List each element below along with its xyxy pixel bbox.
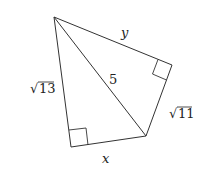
- label-diagonal-5: 5: [109, 72, 117, 87]
- radical-sign: √: [169, 106, 178, 121]
- edge-sqrt11: [146, 65, 172, 136]
- diagonal-5: [54, 17, 146, 136]
- geometry-diagram: y 5 x √ 13 √ 11: [0, 0, 206, 171]
- label-sqrt13: √ 13: [30, 81, 56, 96]
- radicand-13: 13: [39, 81, 56, 96]
- right-angle-marker-bottom-left: [69, 128, 88, 145]
- label-sqrt11: √ 11: [169, 106, 195, 121]
- label-x: x: [102, 151, 110, 166]
- radicand-11: 11: [178, 106, 195, 121]
- label-y: y: [120, 25, 129, 40]
- edge-y: [54, 17, 172, 65]
- edge-x: [71, 136, 146, 147]
- radical-sign: √: [30, 81, 39, 96]
- right-angle-marker-top-right: [153, 60, 167, 81]
